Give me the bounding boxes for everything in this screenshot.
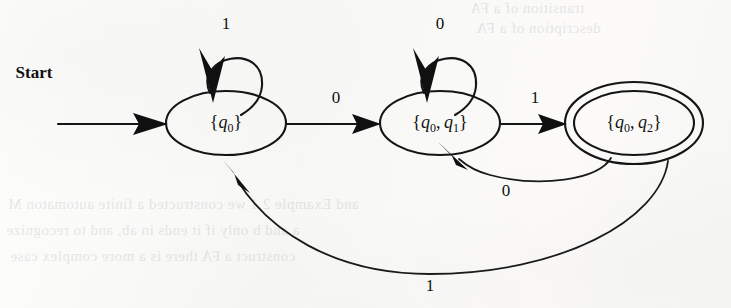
self-loop-s0 [199, 48, 262, 115]
state-label-s2: {q0, q2} [606, 112, 661, 135]
transition-label-s2-s1: 0 [502, 181, 511, 200]
start-label: Start [16, 63, 53, 82]
state-label-s0: {q0} [210, 112, 242, 135]
transition-s1-s2 [501, 114, 567, 134]
start-arrow [58, 113, 168, 135]
self-loop-label-s1: 0 [436, 14, 445, 33]
state-label-s1: {q0, q1} [412, 112, 467, 135]
transition-s0-s1 [287, 114, 381, 134]
transition-label-s1-s2: 1 [531, 88, 540, 107]
transition-s2-s1 [438, 142, 611, 181]
state-node-s1[interactable]: {q0, q1} [380, 91, 500, 155]
figure-canvas: transition of a FA description of a FA a… [0, 0, 731, 308]
transition-label-s2-s0: 1 [426, 276, 435, 295]
self-loop-s1 [413, 48, 476, 115]
transition-s2-s0 [222, 159, 668, 274]
state-node-s0[interactable]: {q0} [166, 91, 286, 155]
transition-label-s0-s1: 0 [332, 88, 341, 107]
state-node-s2[interactable]: {q0, q2} [565, 82, 703, 164]
self-loop-label-s0: 1 [222, 14, 231, 33]
state-diagram: Start 0 1 1 0 0 [0, 0, 731, 308]
